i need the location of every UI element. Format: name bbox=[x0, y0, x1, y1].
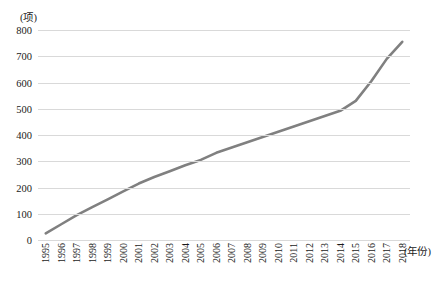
gridline bbox=[38, 83, 410, 84]
line-chart-figure: (项) 8007006005004003002001000 1995199619… bbox=[0, 0, 445, 282]
x-tick-label: 2013 bbox=[319, 243, 330, 263]
x-tick-label: 2015 bbox=[350, 243, 361, 263]
x-tick-label: 2009 bbox=[257, 243, 268, 263]
x-tick-label: 2017 bbox=[381, 243, 392, 263]
y-tick-label: 100 bbox=[16, 208, 32, 219]
x-tick-label: 1998 bbox=[87, 243, 98, 263]
x-tick-label: 2008 bbox=[242, 243, 253, 263]
x-tick-label: 2003 bbox=[164, 243, 175, 263]
gridline bbox=[38, 214, 410, 215]
x-tick-label: 2005 bbox=[195, 243, 206, 263]
y-tick-label: 200 bbox=[16, 182, 32, 193]
x-tick-label: 2006 bbox=[211, 243, 222, 263]
y-tick-label: 700 bbox=[16, 51, 32, 62]
x-tick-label: 2000 bbox=[118, 243, 129, 263]
y-tick-label: 600 bbox=[16, 77, 32, 88]
plot-area bbox=[38, 30, 410, 240]
x-axis-unit-label: (年份) bbox=[404, 246, 431, 258]
x-tick-label: 1997 bbox=[71, 243, 82, 263]
x-tick-label: 2016 bbox=[366, 243, 377, 263]
gridline bbox=[38, 135, 410, 136]
y-tick-label: 400 bbox=[16, 130, 32, 141]
gridline bbox=[38, 240, 410, 241]
gridline bbox=[38, 188, 410, 189]
gridline bbox=[38, 30, 410, 31]
x-tick-label: 2001 bbox=[133, 243, 144, 263]
x-tick-label: 2007 bbox=[226, 243, 237, 263]
x-axis-tick-labels: 1995199619971998199920002001200220032004… bbox=[38, 243, 410, 281]
x-tick-label: 2014 bbox=[335, 243, 346, 263]
x-tick-label: 2002 bbox=[149, 243, 160, 263]
x-tick-label: 1999 bbox=[102, 243, 113, 263]
gridline bbox=[38, 109, 410, 110]
x-tick-label: 1995 bbox=[40, 243, 51, 263]
x-tick-label: 2010 bbox=[273, 243, 284, 263]
x-tick-label: 2012 bbox=[304, 243, 315, 263]
y-axis-tick-labels: 8007006005004003002001000 bbox=[0, 30, 36, 240]
y-tick-label: 300 bbox=[16, 156, 32, 167]
gridline bbox=[38, 56, 410, 57]
y-tick-label: 800 bbox=[16, 25, 32, 36]
y-tick-label: 0 bbox=[27, 235, 32, 246]
x-tick-label: 1996 bbox=[56, 243, 67, 263]
x-tick-label: 2011 bbox=[288, 243, 299, 263]
y-axis-unit-label: (项) bbox=[20, 12, 37, 24]
gridline bbox=[38, 161, 410, 162]
y-tick-label: 500 bbox=[16, 103, 32, 114]
x-tick-label: 2004 bbox=[180, 243, 191, 263]
